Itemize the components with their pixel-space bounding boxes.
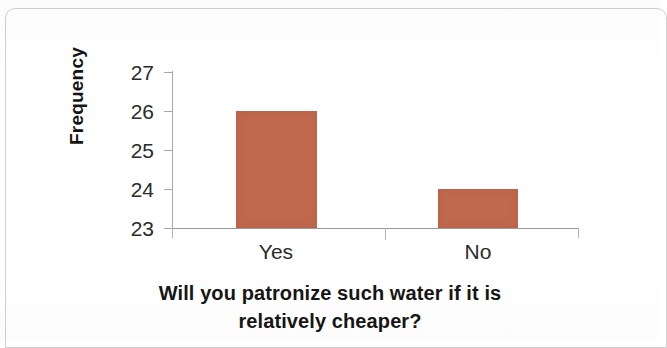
x-axis-line xyxy=(172,228,579,229)
bar-yes xyxy=(236,111,317,228)
y-tick-label-25: 25 xyxy=(108,140,154,161)
y-axis-tick-26 xyxy=(164,111,173,112)
x-axis-end-tick xyxy=(578,228,579,238)
x-axis-title-line-2: relatively cheaper? xyxy=(60,308,600,336)
x-axis-title: Will you patronize such water if it is r… xyxy=(60,280,600,335)
y-axis-tick-24 xyxy=(164,189,173,190)
y-tick-label-26: 26 xyxy=(108,101,154,122)
x-axis-title-line-1: Will you patronize such water if it is xyxy=(60,280,600,308)
bar-no xyxy=(438,189,518,228)
y-axis-title: Frequency xyxy=(66,11,88,181)
x-axis-category-separator-tick xyxy=(385,228,386,240)
y-tick-label-27: 27 xyxy=(108,62,154,83)
y-axis-tick-25 xyxy=(164,150,173,151)
x-axis-category-label-no: No xyxy=(418,240,538,263)
x-axis-category-label-yes: Yes xyxy=(216,240,336,263)
x-axis-start-tick xyxy=(172,228,173,238)
y-axis-tick-27 xyxy=(164,72,173,73)
y-tick-label-23: 23 xyxy=(108,218,154,239)
y-tick-label-24: 24 xyxy=(108,179,154,200)
